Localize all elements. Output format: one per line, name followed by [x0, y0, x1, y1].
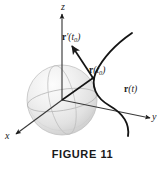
position-vector-close-paren: )	[102, 65, 105, 75]
axis-label-x: x	[5, 131, 9, 141]
curve-vector-close-paren: )	[134, 84, 137, 94]
axis-label-z: z	[61, 2, 65, 12]
tangent-vector-close-paren: )	[77, 32, 80, 42]
label-curve-vector: r(t)	[124, 85, 137, 95]
tangent-point-marker	[92, 77, 95, 80]
axis-label-y: y	[152, 112, 156, 122]
label-position-vector: r(t0)	[89, 66, 105, 76]
label-tangent-vector: r′(t0)	[62, 33, 81, 43]
figure-caption: FIGURE 11	[0, 148, 165, 160]
figure-container: r′(t0) r(t0) r(t) z y x FIGURE 11	[0, 0, 165, 170]
vector-curve-diagram	[0, 0, 165, 170]
